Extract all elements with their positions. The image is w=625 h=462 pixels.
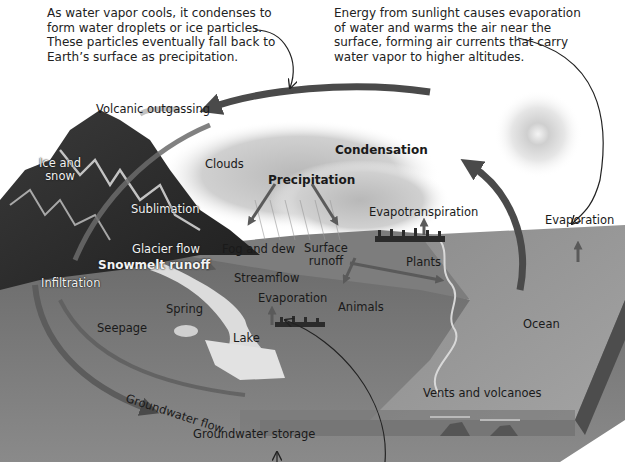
water-cycle-diagram: As water vapor cools, it condenses to fo… [0, 0, 625, 462]
label-spring: Spring [166, 303, 203, 316]
label-sublimation: Sublimation [131, 203, 200, 216]
label-surface-runoff: Surface runoff [303, 242, 349, 268]
caption-line: surface, forming air currents that carry [334, 35, 581, 50]
label-seepage: Seepage [97, 322, 147, 335]
label-evaporation-lake: Evaporation [258, 292, 327, 305]
caption-evaporation-note: Energy from sunlight causes evaporation … [334, 6, 581, 64]
label-plants: Plants [406, 256, 441, 269]
label-groundwater-storage: Groundwater storage [193, 428, 315, 441]
label-infiltration: Infiltration [41, 277, 100, 290]
label-clouds: Clouds [205, 158, 244, 171]
label-evaporation-ocean: Evaporation [545, 214, 614, 227]
caption-condensation-note: As water vapor cools, it condenses to fo… [47, 6, 275, 64]
label-line: runoff [303, 255, 349, 268]
label-animals: Animals [338, 301, 384, 314]
caption-line: of water and warms the air near the [334, 21, 581, 36]
label-fog-and-dew: Fog and dew [222, 243, 295, 256]
label-lake: Lake [233, 332, 260, 345]
caption-line: Earth’s surface as precipitation. [47, 50, 275, 65]
label-vents-and-volcanoes: Vents and volcanoes [423, 387, 542, 400]
label-snowmelt-runoff: Snowmelt runoff [98, 259, 210, 272]
label-evapotranspiration: Evapotranspiration [369, 206, 478, 219]
label-precipitation: Precipitation [268, 174, 355, 187]
caption-line: form water droplets or ice particles. [47, 21, 275, 36]
label-streamflow: Streamflow [234, 272, 299, 285]
caption-line: These particles eventually fall back to [47, 35, 275, 50]
arrow-atmospheric-transport [210, 87, 430, 108]
label-condensation: Condensation [335, 144, 428, 157]
caption-line: water vapor to higher altitudes. [334, 50, 581, 65]
label-ocean: Ocean [523, 318, 560, 331]
label-volcanic-outgassing: Volcanic outgassing [96, 103, 210, 116]
sun [494, 90, 582, 178]
caption-line: Energy from sunlight causes evaporation [334, 6, 581, 21]
label-ice-and-snow: Ice and snow [38, 157, 82, 183]
label-glacier-flow: Glacier flow [132, 243, 200, 256]
label-line: snow [38, 170, 82, 183]
caption-line: As water vapor cools, it condenses to [47, 6, 275, 21]
